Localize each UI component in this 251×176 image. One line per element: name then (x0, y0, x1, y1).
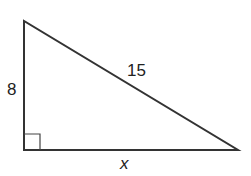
hypotenuse-label: 15 (127, 61, 146, 80)
right-triangle (24, 21, 238, 150)
horizontal-leg-label: x (119, 154, 129, 173)
triangle-diagram: 8 15 x (0, 0, 251, 176)
right-angle-marker (24, 134, 40, 150)
vertical-leg-label: 8 (7, 80, 16, 99)
